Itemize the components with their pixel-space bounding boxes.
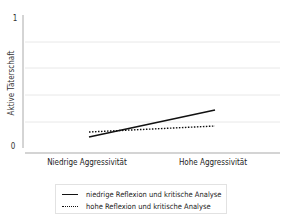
series-high-reflection-line bbox=[89, 126, 215, 132]
legend: niedrige Reflexion und kritische Analyse… bbox=[55, 184, 227, 214]
gridlines bbox=[25, 42, 280, 122]
x-category-high: Hohe Aggressivität bbox=[179, 158, 247, 167]
series-low-reflection-line bbox=[89, 110, 215, 137]
y-tick-0: 0 bbox=[11, 142, 16, 151]
dotted-line-swatch-icon bbox=[62, 206, 78, 207]
solid-line-swatch-icon bbox=[62, 194, 78, 195]
legend-item-low-reflection: niedrige Reflexion und kritische Analyse bbox=[62, 188, 221, 200]
x-category-low: Niedrige Aggressivität bbox=[47, 158, 127, 167]
legend-item-high-reflection: hohe Reflexion und kritische Analyse bbox=[62, 200, 211, 212]
y-axis-label: Aktive Täterschaft bbox=[7, 50, 16, 115]
legend-label-high-reflection: hohe Reflexion und kritische Analyse bbox=[86, 202, 211, 211]
y-tick-1: 1 bbox=[13, 14, 18, 23]
legend-label-low-reflection: niedrige Reflexion und kritische Analyse bbox=[86, 190, 221, 199]
